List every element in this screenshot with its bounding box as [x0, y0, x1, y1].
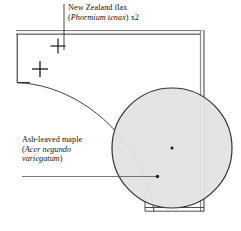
maple-canopy [112, 88, 232, 208]
flax-paren-close: ) [126, 13, 129, 22]
flax-botanical-name: Phormium tenax [71, 13, 126, 22]
maple-common-name: Ash-leaved maple [22, 135, 82, 145]
label-ash-leaved-maple: Ash-leaved maple (Acer negundo variegatu… [22, 135, 82, 164]
left-wall [17, 34, 30, 82]
maple-paren-close: ) [60, 154, 63, 163]
top-wall [16, 31, 204, 35]
flax-marker-1 [51, 39, 66, 54]
maple-botanical-name-1: Acer negundo [25, 145, 71, 154]
maple-centre-point [171, 147, 174, 150]
maple-botanical-name-2: variegatum [22, 154, 60, 163]
plan-drawing [0, 0, 241, 231]
flax-quantity: x2 [131, 13, 139, 22]
flax-common-name: New Zealand flax [68, 3, 139, 13]
flax-markers [32, 39, 66, 78]
garden-planting-plan: New Zealand flax (Phormium tenax) x2 Ash… [0, 0, 241, 231]
maple-botanical-line-1: (Acer negundo [22, 145, 82, 155]
maple-leader-endpoint [156, 175, 159, 178]
maple-botanical-line-2: variegatum) [22, 154, 82, 164]
flax-marker-2 [32, 61, 48, 77]
label-new-zealand-flax: New Zealand flax (Phormium tenax) x2 [68, 3, 139, 22]
flax-botanical-line: (Phormium tenax) x2 [68, 13, 139, 23]
